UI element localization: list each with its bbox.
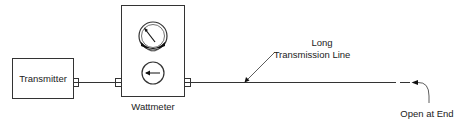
wattmeter-output-connector-icon (185, 79, 191, 87)
transmission-line-label-line2: Transmission Line (274, 49, 351, 60)
direction-arrow-left-icon (142, 62, 164, 84)
diagram-canvas: Transmitter (0, 0, 465, 125)
open-end-label: Open at End (400, 108, 453, 119)
transmitter-connector-icon (74, 79, 79, 87)
transmitter-label: Transmitter (19, 73, 67, 84)
transmission-line-label-line1: Long (311, 37, 332, 48)
transmitter-block: Transmitter (13, 59, 79, 99)
wattmeter-label: Wattmeter (131, 101, 174, 112)
analog-meter-dial-icon (139, 22, 167, 51)
wattmeter-input-connector-icon (116, 79, 122, 87)
line-label-leader (245, 52, 276, 83)
open-end-pointer-arrow-icon (412, 80, 430, 103)
wattmeter-block: Wattmeter (116, 6, 191, 113)
